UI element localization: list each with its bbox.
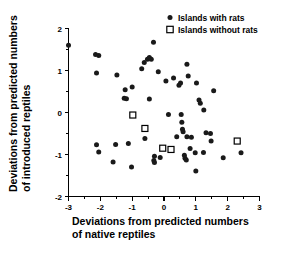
x-tick-label: -1	[129, 203, 137, 212]
data-point-with-rats	[166, 112, 171, 117]
data-point-with-rats	[152, 160, 157, 165]
x-tick-label: 0	[162, 203, 167, 212]
data-point-with-rats	[188, 146, 193, 151]
data-points	[66, 40, 244, 174]
data-point-with-rats	[186, 73, 191, 78]
data-point-with-rats	[176, 83, 181, 88]
data-point-with-rats	[123, 87, 128, 92]
data-point-with-rats	[124, 96, 129, 101]
data-point-with-rats	[66, 43, 71, 48]
data-point-with-rats	[130, 84, 135, 89]
data-point-with-rats	[147, 97, 152, 102]
legend-label-with-rats: Islands with rats	[178, 13, 245, 23]
y-tick-label: -1	[55, 151, 63, 160]
data-point-with-rats	[142, 136, 147, 141]
data-point-with-rats	[198, 101, 203, 106]
y-tick-label: 2	[58, 25, 63, 34]
data-point-with-rats	[208, 131, 213, 136]
data-point-with-rats	[156, 69, 161, 74]
tick-labels: -3-2-10123-2-1012	[55, 25, 262, 213]
y-axis-title-line1: Deviations from predicted numbers	[7, 15, 19, 192]
y-tick-label: 1	[58, 67, 63, 76]
legend: Islands with ratsIslands without rats	[167, 13, 258, 35]
data-point-with-rats	[211, 88, 216, 93]
data-point-with-rats	[184, 157, 189, 162]
data-point-without-rats	[142, 125, 148, 131]
x-tick-label: 1	[194, 203, 199, 212]
data-point-with-rats	[94, 71, 99, 76]
plot-svg: -3-2-10123-2-1012 Islands with ratsIslan…	[0, 0, 288, 256]
data-point-with-rats	[193, 150, 198, 155]
data-point-with-rats	[171, 76, 176, 81]
data-point-with-rats	[126, 141, 131, 146]
data-point-with-rats	[96, 149, 101, 154]
x-tick-label: 3	[257, 203, 262, 212]
data-point-with-rats	[174, 134, 179, 139]
data-point-with-rats	[181, 129, 186, 134]
data-point-with-rats	[152, 154, 157, 159]
data-point-with-rats	[158, 155, 163, 160]
data-point-with-rats	[201, 150, 206, 155]
data-point-with-rats	[201, 107, 206, 112]
data-point-with-rats	[209, 139, 214, 144]
x-tick-label: 2	[225, 203, 230, 212]
legend-marker-with-rats	[168, 15, 173, 20]
y-axis-title-line2: of introduced reptiles	[20, 84, 32, 192]
data-point-with-rats	[149, 57, 154, 62]
data-point-without-rats	[160, 145, 166, 151]
data-point-with-rats	[163, 79, 168, 84]
legend-marker-without-rats	[167, 26, 173, 32]
data-point-with-rats	[194, 81, 199, 86]
x-axis-title-line1: Deviations from predicted numbers	[72, 215, 249, 227]
data-point-with-rats	[114, 73, 119, 78]
legend-label-without-rats: Islands without rats	[178, 25, 258, 35]
x-axis-title-line2: of native reptiles	[72, 228, 156, 240]
scatter-chart-figure: -3-2-10123-2-1012 Islands with ratsIslan…	[0, 0, 288, 256]
data-point-with-rats	[139, 66, 144, 71]
data-point-with-rats	[239, 150, 244, 155]
data-point-with-rats	[151, 40, 156, 45]
data-point-with-rats	[111, 160, 116, 165]
y-tick-label: 0	[58, 109, 63, 118]
data-point-with-rats	[184, 62, 189, 67]
data-point-with-rats	[189, 135, 194, 140]
data-point-with-rats	[179, 112, 184, 117]
data-point-with-rats	[179, 120, 184, 125]
data-point-without-rats	[168, 146, 174, 152]
y-tick-label: -2	[55, 193, 63, 202]
data-point-with-rats	[94, 142, 99, 147]
data-point-with-rats	[184, 134, 189, 139]
data-point-with-rats	[129, 165, 134, 170]
data-point-with-rats	[193, 168, 198, 173]
data-point-with-rats	[96, 53, 101, 58]
x-tick-label: -2	[97, 203, 105, 212]
data-point-with-rats	[113, 142, 118, 147]
data-point-without-rats	[130, 112, 136, 118]
data-point-with-rats	[204, 130, 209, 135]
x-tick-label: -3	[65, 203, 73, 212]
data-point-with-rats	[221, 155, 226, 160]
data-point-without-rats	[234, 138, 240, 144]
